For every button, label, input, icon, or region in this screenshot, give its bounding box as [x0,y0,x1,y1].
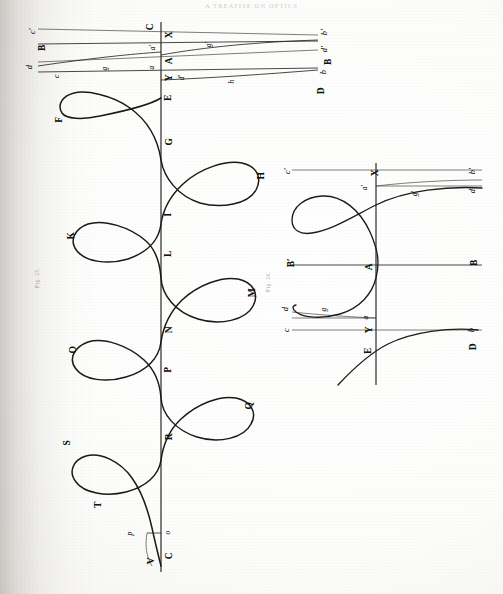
fig-25-label-c: c [53,74,61,78]
fig-25-label-g: g [101,67,108,71]
fig-25-label-A: A [165,57,175,64]
fig-26-group [292,163,482,385]
fig-26-label-a-prime: a′ [361,185,368,190]
fig-26-label-B: B [470,260,480,266]
fig-26-line-g-prime [376,180,482,186]
fig-26-label-X: X [371,169,381,176]
fig-26-label-g-prime: g′ [411,191,418,196]
fig-25-label-V: V [147,557,157,564]
fig-25-label-F: F [55,117,65,123]
fig-25-label-c-prime: c′ [29,28,37,34]
fig-25-label-d-prime-r: d′ [321,46,329,52]
fig-25-label-D: D [317,87,327,94]
fig-25-label-B-right: B [324,59,334,65]
scanned-page: A TREATISE ON OPTICS [0,0,503,594]
fig-26-label-g: g [320,308,327,312]
fig-25-label-d: d [26,65,34,69]
fig-25-rule-d [38,50,318,62]
fig-26-label-b-prime: b′ [469,168,477,174]
fig-25-group [38,22,318,572]
fig-25-label-E: E [164,95,174,101]
fig-25-rule-c [38,68,318,72]
fig-26-sine-curve [292,188,482,318]
fig-26-label-B-prime: B′ [287,258,297,267]
fig-25-label-h: h [228,80,235,84]
fig-25-line-g-prime [161,40,318,55]
fig-25-label-C-bottom: C [165,552,175,559]
fig-25-rule-b-prime [38,41,318,44]
fig-25-label-d-prime: d′ [178,75,185,80]
fig-25-label-a-prime: a′ [149,45,156,50]
fig-26-caption: Fig. 26. [265,272,271,292]
fig-25-label-K: K [67,232,77,239]
fig-26-label-Y: Y [365,326,375,333]
fig-25-label-Q: Q [245,402,255,409]
fig-25-label-G: G [165,138,175,145]
fig-26-label-D: D [469,343,479,350]
fig-25-label-H: H [257,172,267,179]
fig-25-label-N: N [165,326,175,333]
fig-26-label-E: E [364,348,374,354]
fig-25-line-g [38,52,161,66]
fig-25-caption: Fig. 25. [34,268,40,288]
fig-26-label-d: d [282,307,290,311]
fig-25-label-p: p [126,532,133,536]
fig-25-label-S: S [63,440,73,445]
scan-gutter-shadow [0,0,96,594]
fig-25-label-a: a [148,66,155,70]
fig-26-label-A: A [365,263,375,270]
fig-25-label-o: o [164,531,171,535]
fig-26-label-a: a [362,316,369,320]
fig-26-label-c-prime: c′ [284,168,292,174]
fig-25-label-I: I [164,213,174,217]
fig-25-label-P: P [164,367,174,373]
fig-25-label-Y: Y [165,74,175,81]
fig-25-rule-c-prime [38,29,318,35]
fig-25-label-b-prime: b′ [321,29,329,35]
running-head: A TREATISE ON OPTICS [0,2,503,9]
fig-25-label-O: O [69,346,79,353]
fig-26-lower-arc [338,329,478,385]
fig-25-waveform [60,92,259,566]
fig-26-label-c: c [283,328,291,332]
fig-25-label-M: M [248,288,258,297]
fig-26-label-b: b [468,328,476,332]
fig-25-label-T: T [94,502,104,508]
fig-25-label-B: B [38,45,48,51]
fig-26-label-d-prime: d′ [469,187,477,193]
fig-25-label-C-top: C [146,23,156,30]
fig-25-label-L: L [164,251,174,257]
fig-25-label-g-prime: g′ [205,42,212,47]
fig-25-label-X: X [165,31,175,38]
fig-25-label-b: b [320,70,328,74]
fig-25-label-R: R [165,433,175,440]
